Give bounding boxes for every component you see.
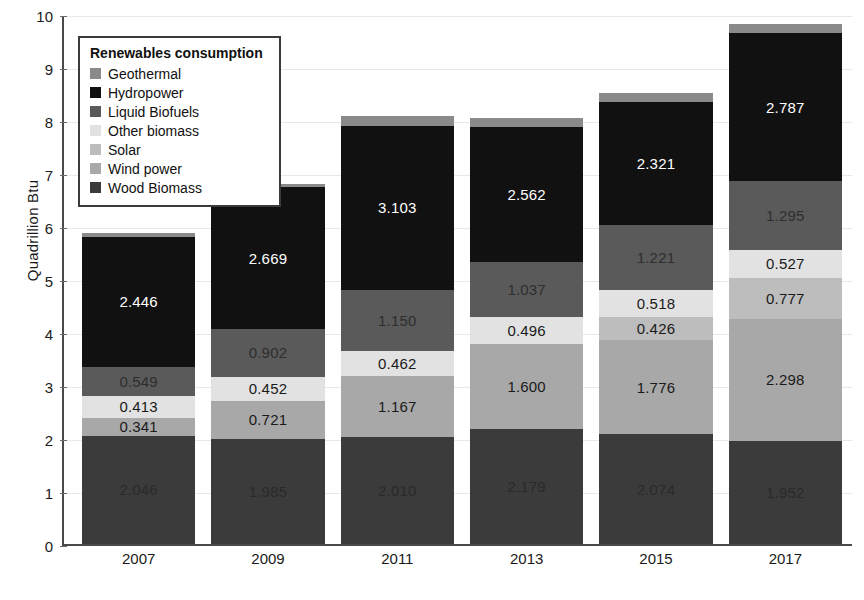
segment-value-label: 2.446 <box>119 293 158 310</box>
segment-value-label: 1.952 <box>766 484 805 501</box>
segment-value-label: 1.985 <box>249 483 288 500</box>
x-tick-label-2013: 2013 <box>510 550 543 567</box>
bar-segment-wind-power[interactable]: 2.298 <box>729 319 842 441</box>
segment-value-label: 0.902 <box>249 344 288 361</box>
bar-segment-wind-power[interactable]: 1.600 <box>470 344 583 429</box>
segment-value-label: 0.413 <box>119 398 158 415</box>
bar-segment-wood-biomass[interactable]: 2.046 <box>82 436 195 544</box>
x-tick-label-2007: 2007 <box>122 550 155 567</box>
x-axis-line <box>62 544 852 546</box>
bar-segment-other-biomass[interactable]: 0.496 <box>470 317 583 343</box>
segment-value-label: 0.518 <box>637 295 676 312</box>
bar-2009[interactable]: 1.9850.7210.4520.9022.669 <box>211 184 324 544</box>
y-tick-label: 7 <box>45 167 53 184</box>
bar-segment-other-biomass[interactable]: 0.518 <box>599 290 712 317</box>
bar-segment-hydropower[interactable]: 2.562 <box>470 127 583 263</box>
stacked-bar-chart: Quadrillion Btu 012345678910 2.0460.3410… <box>0 0 864 600</box>
bar-segment-geothermal[interactable] <box>82 233 195 237</box>
legend-item-geothermal[interactable]: Geothermal <box>90 64 263 83</box>
y-tick-label: 3 <box>45 379 53 396</box>
segment-value-label: 2.298 <box>766 371 805 388</box>
y-tick-mark <box>60 175 67 176</box>
legend-item-wood-biomass[interactable]: Wood Biomass <box>90 178 263 197</box>
segment-value-label: 0.527 <box>766 255 805 272</box>
bar-segment-solar[interactable]: 0.777 <box>729 278 842 319</box>
x-tick-label-2017: 2017 <box>769 550 802 567</box>
bar-segment-wood-biomass[interactable]: 2.179 <box>470 429 583 544</box>
y-tick-label: 1 <box>45 485 53 502</box>
segment-value-label: 0.549 <box>119 373 158 390</box>
segment-value-label: 0.462 <box>378 355 417 372</box>
segment-value-label: 0.426 <box>637 320 676 337</box>
x-tick-label-2011: 2011 <box>381 550 413 567</box>
x-tick-label-2009: 2009 <box>251 550 284 567</box>
bar-segment-wood-biomass[interactable]: 2.010 <box>341 437 454 544</box>
legend-title: Renewables consumption <box>90 45 263 61</box>
bar-segment-hydropower[interactable]: 3.103 <box>341 126 454 290</box>
y-tick-mark <box>60 281 67 282</box>
bar-segment-geothermal[interactable] <box>729 24 842 33</box>
bar-segment-wind-power[interactable]: 1.776 <box>599 340 712 434</box>
legend-item-solar[interactable]: Solar <box>90 140 263 159</box>
bar-2013[interactable]: 2.1791.6000.4961.0372.562 <box>470 118 583 544</box>
segment-value-label: 2.074 <box>637 481 676 498</box>
y-tick-label: 8 <box>45 114 53 131</box>
bar-segment-geothermal[interactable] <box>341 116 454 125</box>
y-tick-mark <box>60 122 67 123</box>
gridline <box>62 16 852 17</box>
y-tick-mark <box>60 16 67 17</box>
bar-segment-wood-biomass[interactable]: 1.985 <box>211 439 324 544</box>
bar-segment-solar[interactable]: 0.426 <box>599 317 712 340</box>
legend-item-other-biomass[interactable]: Other biomass <box>90 121 263 140</box>
segment-value-label: 2.562 <box>507 186 546 203</box>
bar-segment-hydropower[interactable]: 2.669 <box>211 187 324 328</box>
segment-value-label: 2.321 <box>637 155 676 172</box>
segment-value-label: 3.103 <box>378 199 417 216</box>
bar-segment-liquid-biofuels[interactable]: 1.295 <box>729 181 842 250</box>
y-tick-mark <box>60 440 67 441</box>
bar-segment-hydropower[interactable]: 2.321 <box>599 102 712 225</box>
bar-segment-liquid-biofuels[interactable]: 0.549 <box>82 367 195 396</box>
segment-value-label: 1.295 <box>766 207 805 224</box>
legend-swatch-icon <box>90 106 101 117</box>
bar-segment-wind-power[interactable]: 0.341 <box>82 418 195 436</box>
bar-segment-wood-biomass[interactable]: 2.074 <box>599 434 712 544</box>
y-tick-label: 2 <box>45 432 53 449</box>
y-tick-mark <box>60 334 67 335</box>
bar-2011[interactable]: 2.0101.1670.4621.1503.103 <box>341 116 454 544</box>
bar-2007[interactable]: 2.0460.3410.4130.5492.446 <box>82 233 195 544</box>
y-tick-label: 10 <box>36 8 53 25</box>
legend-item-label: Hydropower <box>108 85 183 101</box>
legend-item-label: Wind power <box>108 161 182 177</box>
legend-item-label: Liquid Biofuels <box>108 104 199 120</box>
bar-segment-liquid-biofuels[interactable]: 1.150 <box>341 290 454 351</box>
bar-segment-other-biomass[interactable]: 0.452 <box>211 377 324 401</box>
segment-value-label: 1.167 <box>378 398 417 415</box>
bar-2015[interactable]: 2.0741.7760.4260.5181.2212.321 <box>599 93 712 544</box>
legend: Renewables consumption GeothermalHydropo… <box>78 36 281 207</box>
legend-item-liquid-biofuels[interactable]: Liquid Biofuels <box>90 102 263 121</box>
bar-segment-hydropower[interactable]: 2.446 <box>82 237 195 367</box>
segment-value-label: 1.150 <box>378 312 417 329</box>
bar-segment-wind-power[interactable]: 0.721 <box>211 401 324 439</box>
segment-value-label: 0.341 <box>119 418 158 435</box>
bar-segment-other-biomass[interactable]: 0.527 <box>729 250 842 278</box>
legend-swatch-icon <box>90 144 101 155</box>
legend-swatch-icon <box>90 87 101 98</box>
bar-segment-other-biomass[interactable]: 0.462 <box>341 351 454 375</box>
bar-segment-geothermal[interactable] <box>470 118 583 127</box>
segment-value-label: 2.010 <box>378 482 417 499</box>
bar-segment-other-biomass[interactable]: 0.413 <box>82 396 195 418</box>
bar-segment-liquid-biofuels[interactable]: 1.037 <box>470 262 583 317</box>
y-tick-label: 6 <box>45 220 53 237</box>
bar-2017[interactable]: 1.9522.2980.7770.5271.2952.787 <box>729 24 842 544</box>
bar-segment-wind-power[interactable]: 1.167 <box>341 376 454 438</box>
legend-item-wind-power[interactable]: Wind power <box>90 159 263 178</box>
bar-segment-wood-biomass[interactable]: 1.952 <box>729 441 842 544</box>
bar-segment-geothermal[interactable] <box>599 93 712 102</box>
bar-segment-liquid-biofuels[interactable]: 0.902 <box>211 329 324 377</box>
y-tick-mark <box>60 493 67 494</box>
bar-segment-liquid-biofuels[interactable]: 1.221 <box>599 225 712 290</box>
legend-item-hydropower[interactable]: Hydropower <box>90 83 263 102</box>
bar-segment-hydropower[interactable]: 2.787 <box>729 33 842 181</box>
